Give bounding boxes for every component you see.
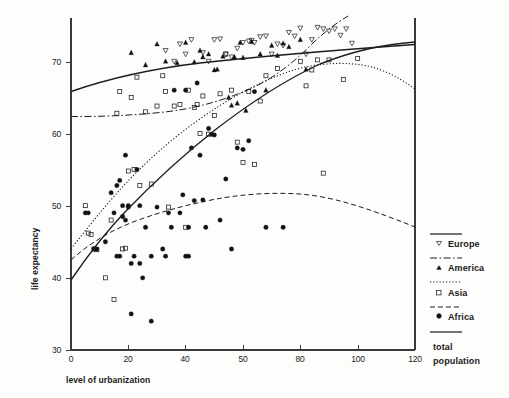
data-point: [129, 95, 133, 99]
data-point: [189, 38, 194, 43]
data-point: [129, 261, 133, 265]
data-point: [206, 51, 211, 56]
data-point: [204, 225, 208, 229]
data-point: [315, 25, 320, 30]
data-point: [175, 60, 180, 65]
data-point: [298, 59, 302, 63]
data-point: [172, 88, 176, 92]
data-point: [264, 88, 269, 93]
y-axis-title: life expectancy: [30, 227, 40, 290]
data-point: [118, 178, 122, 182]
x-tick-label-80: 80: [295, 354, 305, 364]
data-point: [229, 103, 234, 108]
data-point: [286, 30, 291, 35]
data-point: [316, 58, 320, 62]
data-point: [112, 297, 116, 301]
data-point: [264, 225, 268, 229]
data-point: [212, 133, 216, 137]
legend-label-total-population-line2: population: [433, 356, 480, 366]
data-point: [118, 254, 122, 258]
data-point: [129, 50, 134, 55]
data-point: [229, 247, 233, 251]
data-point: [298, 26, 303, 31]
data-point: [181, 193, 185, 197]
data-point: [143, 225, 147, 229]
data-point: [103, 276, 107, 280]
y-tick-label-30: 30: [52, 345, 62, 355]
data-points-layer: [83, 25, 360, 323]
data-point: [163, 254, 167, 258]
legend-label-europe: Europe: [448, 239, 480, 249]
trend-line-america: [71, 16, 348, 117]
data-point: [118, 90, 122, 94]
data-point: [321, 27, 326, 32]
data-point: [298, 37, 303, 42]
x-tick-label-100: 100: [351, 354, 365, 364]
legend-marker-asia-icon: [437, 291, 441, 295]
data-point: [241, 147, 245, 151]
data-point: [155, 104, 159, 108]
data-point: [218, 92, 222, 96]
data-point: [163, 48, 168, 53]
series-points-africa: [83, 81, 285, 324]
data-point: [83, 204, 87, 208]
y-axis-ticks: 30 40 50 60 70: [52, 57, 71, 355]
data-point: [309, 38, 314, 43]
data-point: [161, 74, 165, 78]
x-tick-label-40: 40: [180, 354, 190, 364]
data-point: [252, 89, 256, 93]
legend: Europe America Asia Africa: [430, 234, 485, 366]
data-point: [123, 218, 127, 222]
data-point: [132, 254, 136, 258]
data-point: [149, 319, 153, 323]
legend-item-america[interactable]: America: [430, 258, 485, 273]
data-point: [115, 111, 119, 115]
data-point: [281, 41, 286, 46]
data-point: [332, 27, 337, 32]
data-point: [155, 205, 159, 209]
data-point: [287, 44, 292, 49]
data-point: [321, 171, 325, 175]
legend-item-asia[interactable]: Asia: [430, 282, 468, 298]
data-point: [103, 240, 107, 244]
data-point: [201, 94, 205, 98]
data-point: [275, 67, 279, 71]
legend-marker-america-icon: [437, 266, 442, 270]
y-tick-label-40: 40: [52, 273, 62, 283]
data-point: [143, 62, 148, 67]
data-point: [201, 54, 206, 59]
data-point: [241, 160, 245, 164]
data-point: [230, 88, 234, 92]
data-point: [258, 99, 262, 103]
data-point: [178, 211, 182, 215]
data-point: [263, 34, 268, 39]
legend-item-africa[interactable]: Africa: [430, 307, 475, 322]
data-point: [218, 37, 223, 42]
y-tick-label-70: 70: [52, 57, 62, 67]
data-point: [258, 35, 263, 40]
data-point: [235, 140, 239, 144]
data-point: [195, 81, 199, 85]
data-point: [112, 211, 116, 215]
data-point: [155, 41, 160, 46]
legend-item-europe[interactable]: Europe: [430, 234, 480, 249]
data-point: [86, 211, 90, 215]
data-point: [304, 84, 308, 88]
data-point: [356, 56, 360, 60]
x-axis-ticks: 0 20 40 50 80 100 120: [69, 345, 423, 364]
data-point: [198, 153, 202, 157]
legend-marker-africa-icon: [437, 314, 442, 319]
legend-label-asia: Asia: [448, 288, 468, 298]
legend-label-america: America: [448, 263, 485, 273]
data-point: [183, 88, 187, 92]
legend-item-total-population[interactable]: total population: [430, 332, 480, 366]
data-point: [338, 33, 343, 38]
y-tick-label-50: 50: [52, 201, 62, 211]
data-point: [198, 131, 202, 135]
data-point: [186, 254, 190, 258]
data-point: [138, 183, 142, 187]
data-point: [281, 225, 285, 229]
data-point: [212, 38, 217, 43]
x-tick-label-0: 0: [69, 354, 74, 364]
data-point: [247, 139, 251, 143]
